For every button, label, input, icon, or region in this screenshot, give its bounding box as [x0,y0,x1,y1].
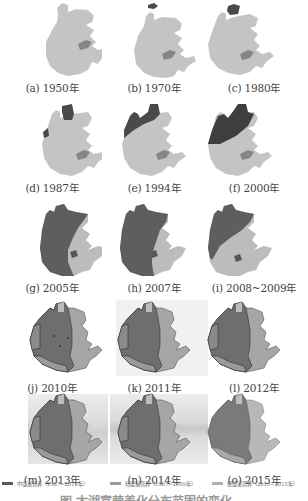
panel-label: (g) 2005年 [2,280,102,295]
panel-i: (i) 2008~2009年 [204,200,304,296]
panel-label: (d) 1987年 [2,180,102,195]
panel-g: (g) 2005年 [2,200,102,296]
panel-label: (f) 2000年 [204,180,304,195]
panel-row-4: (j) 2010年 (k) 2011年 (l) 2012年 [0,300,308,396]
lake-map-2011 [104,300,204,380]
panel-e: (e) 1994年 [104,100,204,196]
panel-a: (a) 1950年 [2,0,102,96]
lake-map-1994 [104,100,204,180]
lake-map-2005 [2,200,102,280]
lake-map-2000 [204,100,304,180]
panel-l: (l) 2012年 [204,300,304,396]
panel-h: (h) 2007年 [104,200,204,296]
panel-c: (c) 1980年 [204,0,304,96]
panel-o: (o) 2015年 [204,392,304,488]
legend-label: 中度富营养（1987~2015年） [17,480,88,487]
figure-legend: 中度富营养（1987~2015年） 轻度富营养（1987~2009年） 轻度富营… [0,478,308,490]
legend-swatch [2,482,13,485]
panel-label: (b) 1970年 [104,80,204,95]
panel-j: (j) 2010年 [2,300,102,396]
lake-map-2014 [104,392,204,472]
lake-map-2010 [2,300,102,380]
panel-label: (h) 2007年 [104,280,204,295]
lake-map-1970 [104,0,204,80]
panel-label: (e) 1994年 [104,180,204,195]
figure-caption: 图 太湖富营养化分布范围的变化 [60,492,232,501]
panel-row-3: (g) 2005年 (h) 2007年 (i) 2008~2009年 [0,200,308,296]
panel-d: (d) 1987年 [2,100,102,196]
lake-map-1987 [2,100,102,180]
panel-row-5: (m) 2013年 (n) 2014年 (o) 2015年 [0,392,308,488]
legend-label: 轻度富营养（2010~2015年） [227,480,298,487]
panel-f: (f) 2000年 [204,100,304,196]
panel-row-2: (d) 1987年 (e) 1994年 (f) 2000年 [0,100,308,196]
lake-map-2013 [2,392,102,472]
panel-label: (i) 2008~2009年 [204,280,304,295]
lake-map-2012 [204,300,304,380]
panel-m: (m) 2013年 [2,392,102,488]
legend-swatch [110,482,121,485]
legend-item-light-late: 轻度富营养（2010~2015年） [212,480,298,487]
lake-map-2007 [104,200,204,280]
legend-label: 轻度富营养（1987~2009年） [125,480,196,487]
panel-label: (c) 1980年 [204,80,304,95]
panel-k: (k) 2011年 [104,300,204,396]
panel-b: (b) 1970年 [104,0,204,96]
panel-label: (a) 1950年 [2,80,102,95]
panel-row-1: (a) 1950年 (b) 1970年 (c) 1980年 [0,0,308,96]
legend-swatch [212,482,223,485]
lake-map-1980 [204,0,304,80]
panel-n: (n) 2014年 [104,392,204,488]
lake-map-2015 [204,392,304,472]
legend-item-light-early: 轻度富营养（1987~2009年） [110,480,196,487]
legend-item-moderate: 中度富营养（1987~2015年） [2,480,88,487]
lake-map-1950 [2,0,102,80]
lake-map-2008-2009 [204,200,304,280]
